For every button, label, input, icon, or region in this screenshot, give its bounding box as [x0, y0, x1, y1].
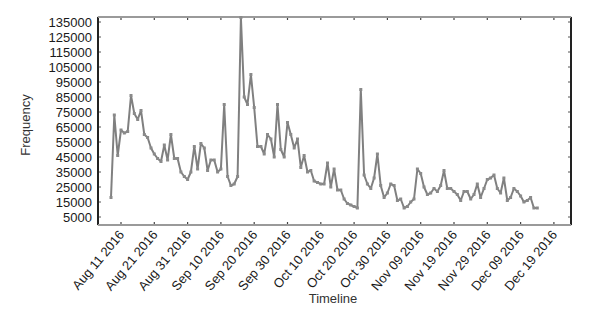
data-point-marker: [436, 190, 439, 193]
data-point-marker: [110, 196, 113, 199]
data-point-marker: [379, 184, 382, 187]
y-tick-label: 5000: [63, 210, 92, 225]
data-point-marker: [522, 201, 525, 204]
data-point-marker: [136, 118, 139, 121]
data-point-marker: [473, 193, 476, 196]
data-point-marker: [396, 199, 399, 202]
data-point-marker: [369, 187, 372, 190]
plot-area: [98, 16, 571, 225]
data-point-marker: [256, 145, 259, 148]
data-point-marker: [116, 154, 119, 157]
data-point-marker: [409, 201, 412, 204]
data-point-marker: [126, 130, 129, 133]
data-point-marker: [113, 114, 116, 117]
data-point-marker: [323, 183, 326, 186]
data-point-marker: [429, 192, 432, 195]
data-point-marker: [289, 133, 292, 136]
data-point-marker: [259, 145, 262, 148]
data-point-marker: [169, 133, 172, 136]
data-point-marker: [209, 159, 212, 162]
data-point-marker: [519, 195, 522, 198]
y-tick-label: 85000: [56, 90, 92, 105]
data-point-marker: [226, 175, 229, 178]
data-point-marker: [166, 159, 169, 162]
data-point-marker: [153, 153, 156, 156]
data-point-marker: [359, 88, 362, 91]
data-point-marker: [433, 187, 436, 190]
data-point-marker: [156, 157, 159, 160]
data-point-marker: [326, 162, 329, 165]
data-point-marker: [249, 73, 252, 76]
data-point-marker: [233, 183, 236, 186]
data-point-marker: [150, 147, 153, 150]
data-point-marker: [406, 205, 409, 208]
data-point-marker: [456, 193, 459, 196]
data-point-marker: [196, 168, 199, 171]
data-point-marker: [293, 147, 296, 150]
data-point-marker: [516, 190, 519, 193]
data-point-marker: [203, 147, 206, 150]
data-point-marker: [253, 106, 256, 109]
data-point-marker: [476, 183, 479, 186]
data-point-marker: [133, 112, 136, 115]
data-point-marker: [446, 187, 449, 190]
data-point-marker: [213, 159, 216, 162]
y-tick-label: 35000: [56, 165, 92, 180]
data-point-marker: [239, 16, 242, 19]
data-point-marker: [469, 198, 472, 201]
y-tick-label: 45000: [56, 150, 92, 165]
data-point-marker: [229, 184, 232, 187]
data-point-marker: [403, 207, 406, 210]
line-chart: Frequency 135000125000115000105000950008…: [0, 0, 594, 321]
data-point-marker: [189, 171, 192, 174]
data-point-marker: [143, 133, 146, 136]
data-point-marker: [536, 207, 539, 210]
data-point-marker: [206, 169, 209, 172]
data-point-marker: [529, 196, 532, 199]
data-point-marker: [459, 199, 462, 202]
x-axis-title: Timeline: [309, 291, 358, 306]
data-point-marker: [383, 196, 386, 199]
data-point-marker: [386, 192, 389, 195]
data-point-marker: [509, 196, 512, 199]
data-point-marker: [316, 181, 319, 184]
data-point-marker: [343, 198, 346, 201]
data-point-marker: [329, 186, 332, 189]
data-point-marker: [140, 109, 143, 112]
data-point-marker: [243, 96, 246, 99]
data-point-marker: [246, 103, 249, 106]
data-point-marker: [283, 156, 286, 159]
data-point-marker: [306, 171, 309, 174]
data-point-marker: [183, 175, 186, 178]
y-tick-label: 15000: [56, 195, 92, 210]
data-point-marker: [130, 94, 133, 97]
data-point-marker: [346, 202, 349, 205]
data-point-marker: [453, 190, 456, 193]
data-point-marker: [160, 160, 163, 163]
data-point-marker: [512, 187, 515, 190]
data-point-marker: [339, 189, 342, 192]
data-point-marker: [266, 133, 269, 136]
data-point-marker: [296, 138, 299, 141]
data-point-marker: [419, 172, 422, 175]
y-tick-label: 65000: [56, 120, 92, 135]
y-axis-label: Frequency: [18, 94, 33, 156]
data-point-marker: [120, 129, 123, 132]
data-point-marker: [273, 156, 276, 159]
data-point-marker: [313, 180, 316, 183]
data-point-marker: [532, 207, 535, 210]
y-axis-title: Frequency: [18, 94, 33, 156]
data-point-marker: [163, 144, 166, 147]
data-point-marker: [279, 148, 282, 151]
data-point-marker: [176, 157, 179, 160]
data-point-marker: [263, 153, 266, 156]
data-point-marker: [416, 168, 419, 171]
data-point-marker: [502, 177, 505, 180]
y-tick-label: 75000: [56, 105, 92, 120]
frequency-series-line: [111, 18, 537, 209]
y-tick-label: 95000: [56, 75, 92, 90]
data-point-marker: [479, 196, 482, 199]
y-tick-label: 135000: [49, 15, 92, 30]
data-point-marker: [199, 142, 202, 145]
data-point-marker: [366, 183, 369, 186]
